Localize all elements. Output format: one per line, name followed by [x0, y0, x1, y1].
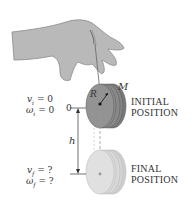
mass-label: M [118, 82, 128, 92]
zero-level-label: 0 [66, 103, 72, 113]
radius-label: R [90, 89, 97, 99]
height-label: h [69, 136, 75, 146]
hand-icon [12, 20, 124, 81]
final-angular-velocity: ωf = ? [26, 176, 54, 190]
initial-angular-velocity: ωi = 0 [26, 105, 54, 119]
initial-position-label-2: POSITION [131, 108, 178, 118]
final-position-label-2: POSITION [131, 175, 178, 185]
final-yoyo [86, 150, 126, 194]
initial-position-label-1: INITIAL [131, 97, 169, 107]
final-position-label-1: FINAL [131, 164, 161, 174]
